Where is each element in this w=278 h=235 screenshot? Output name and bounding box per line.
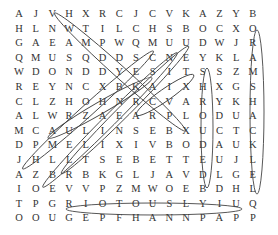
grid-letter: T [112,196,126,211]
grid-letter: L [212,167,226,182]
grid-letter: U [229,137,243,152]
grid-letter: L [79,137,93,152]
grid-letter: V [162,6,176,21]
grid-letter: B [45,167,59,182]
grid-letter: S [62,50,76,65]
grid-letter: H [229,181,243,196]
grid-letter: X [229,21,243,36]
grid-letter: C [146,50,160,65]
grid-letter: U [212,152,226,167]
grid-letter: W [112,35,126,50]
grid-letter: Q [12,50,26,65]
grid-letter: D [29,64,43,79]
grid-letter: V [146,137,160,152]
grid-letter: E [129,64,143,79]
grid-letter: C [79,79,93,94]
grid-letter: E [146,123,160,138]
grid-letter: A [179,94,193,109]
grid-letter: O [29,210,43,225]
grid-row: OOUGEPFHANNPAPP [12,210,270,225]
grid-letter: E [146,152,160,167]
grid-letter: K [129,79,143,94]
grid-letter: E [29,79,43,94]
grid-letter: O [129,196,143,211]
grid-letter: H [62,6,76,21]
grid-letter: W [62,21,76,36]
grid-letter: H [29,152,43,167]
grid-letter: M [129,181,143,196]
grid-letter: B [246,6,260,21]
grid-letter: X [96,79,110,94]
grid-letter: P [246,210,260,225]
grid-letter: I [129,137,143,152]
grid-letter: A [212,137,226,152]
grid-letter: K [246,137,260,152]
grid-letter: R [62,167,76,182]
grid-letter: A [29,35,43,50]
grid-letter: I [162,64,176,79]
grid-letter: I [96,123,110,138]
grid-letter: G [62,210,76,225]
grid-letter: U [45,50,59,65]
grid-letter: G [229,167,243,182]
grid-letter: A [246,50,260,65]
grid-letter: T [162,152,176,167]
grid-letter: R [129,94,143,109]
grid-letter: B [162,123,176,138]
grid-row: DPMELIXIVBODAUK [12,137,270,152]
grid-letter: Q [79,50,93,65]
grid-letter: L [79,123,93,138]
grid-letter: O [246,21,260,36]
grid-letter: O [162,181,176,196]
grid-letter: B [112,79,126,94]
grid-letter: L [129,167,143,182]
grid-letter: N [179,210,193,225]
grid-letter: K [229,94,243,109]
word-search-grid: AJVHXRCJCVKAZYBHLNWTILCHSBOCXOGAEAMPWQMU… [12,6,270,226]
grid-letter: T [12,196,26,211]
grid-letter: W [212,35,226,50]
grid-letter: H [96,94,110,109]
grid-letter: W [146,181,160,196]
grid-letter: N [162,50,176,65]
grid-letter: N [162,210,176,225]
grid-letter: E [45,35,59,50]
grid-letter: A [129,108,143,123]
grid-letter: Z [29,167,43,182]
grid-letter: O [45,64,59,79]
grid-letter: L [112,21,126,36]
grid-letter: R [246,35,260,50]
grid-row: IOEVVPZMWOEBDHL [12,181,270,196]
grid-letter: M [79,35,93,50]
grid-letter: W [45,108,59,123]
grid-letter: S [162,196,176,211]
grid-letter: M [12,123,26,138]
grid-letter: D [12,137,26,152]
grid-letter: R [146,108,160,123]
grid-letter: S [212,64,226,79]
grid-letter: T [179,152,193,167]
grid-letter: I [96,21,110,36]
grid-row: GAEAMPWQMUUDWJR [12,35,270,50]
grid-letter: I [162,79,176,94]
grid-letter: S [129,123,143,138]
grid-letter: H [196,79,210,94]
grid-letter: X [112,137,126,152]
grid-letter: N [45,21,59,36]
grid-letter: O [196,21,210,36]
grid-letter: Z [79,108,93,123]
grid-letter: G [12,35,26,50]
grid-letter: D [196,137,210,152]
grid-letter: L [29,108,43,123]
grid-letter: Y [212,94,226,109]
grid-letter: D [212,181,226,196]
grid-letter: R [196,94,210,109]
grid-letter: S [162,21,176,36]
grid-letter: C [246,123,260,138]
grid-letter: R [62,196,76,211]
grid-letter: L [179,108,193,123]
grid-letter: N [62,79,76,94]
grid-letter: D [112,50,126,65]
grid-letter: P [96,210,110,225]
grid-row: WDONDDYESITSSZM [12,64,270,79]
